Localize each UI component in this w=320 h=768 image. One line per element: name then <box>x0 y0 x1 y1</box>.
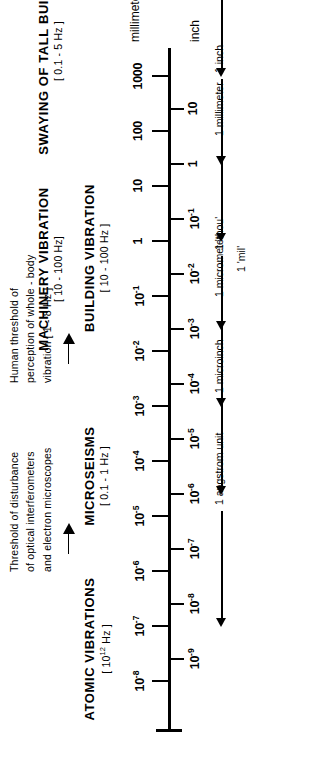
note-optical-disturbance-threshold: Threshold of disturbance of optical inte… <box>6 357 55 572</box>
millimeter-unit-caption: millimeter <box>128 0 142 42</box>
inch-tick <box>169 273 184 275</box>
inch-tick-label: 10-2 <box>186 263 202 284</box>
note-optical-arrow <box>62 524 76 554</box>
inch-tick <box>169 383 184 385</box>
millimeter-tick-label: 10-3 <box>131 396 147 417</box>
millimeter-tick <box>152 625 169 627</box>
inch-tick <box>169 218 184 220</box>
millimeter-tick <box>152 570 169 572</box>
millimeter-tick-label: 10-6 <box>131 561 147 582</box>
reference-marker-label: 1 angstrom unit <box>213 433 225 505</box>
reference-marker-label: 1 millimeter <box>213 82 225 136</box>
millimeter-tick-label: 1000 <box>131 63 145 90</box>
category-atomic-vibrations: ATOMIC VIBRATIONS [ 1012 Hz ] <box>82 564 112 734</box>
millimeter-tick-label: 10-4 <box>131 451 147 472</box>
millimeter-tick <box>152 130 169 132</box>
inch-tick-label: 10-5 <box>186 428 202 449</box>
inch-tick <box>169 438 184 440</box>
inch-tick-label: 10-9 <box>186 648 202 669</box>
vibration-scale-figure: 100010010110-110-210-310-410-510-610-710… <box>0 0 320 768</box>
millimeter-tick-label: 1 <box>131 238 145 245</box>
millimeter-tick <box>152 295 169 297</box>
inch-tick-label: 10-4 <box>186 373 202 394</box>
millimeter-tick-label: 10-2 <box>131 341 147 362</box>
inch-tick-label: 10-7 <box>186 538 202 559</box>
note-human-perception-threshold: Human threshold of perception of whole -… <box>6 168 55 383</box>
arrow-head-icon <box>216 618 226 627</box>
millimeter-tick <box>152 460 169 462</box>
category-frequency: [ 10 - 100 Hz ] <box>98 168 110 348</box>
note-human-arrow <box>62 334 76 364</box>
category-name: BUILDING VIBRATION <box>82 168 97 348</box>
category-frequency: [ 0.1 - 5 Hz ] <box>52 0 64 156</box>
main-axis-line <box>168 48 171 732</box>
arrow-stem <box>221 511 223 619</box>
inch-tick-label: 10-3 <box>186 318 202 339</box>
category-microseisms: MICROSEISMS [ 0.1 - 1 Hz ] <box>82 396 110 556</box>
category-name: SWAYING OF TALL BUILDINGS <box>36 0 51 156</box>
millimeter-tick <box>152 75 169 77</box>
millimeter-tick <box>152 240 169 242</box>
category-name: ATOMIC VIBRATIONS <box>82 564 97 734</box>
millimeter-tick-label: 10-7 <box>131 616 147 637</box>
reference-marker-label: 1 inch <box>213 45 225 73</box>
category-frequency: [ 0.1 - 1 Hz ] <box>98 396 110 556</box>
inch-tick <box>169 658 184 660</box>
reference-marker: 1 'mil' <box>236 215 252 329</box>
millimeter-tick-label: 100 <box>131 121 145 141</box>
millimeter-tick-label: 10-8 <box>131 671 147 692</box>
category-frequency: [ 1012 Hz ] <box>98 564 112 734</box>
reference-marker-label: 1 micrometer <box>213 236 225 297</box>
inch-tick <box>169 603 184 605</box>
reference-marker: 1 angstrom unit <box>214 448 230 626</box>
category-name: MICROSEISMS <box>82 396 97 556</box>
reference-marker-label: 1 microinch <box>213 339 225 393</box>
millimeter-tick <box>152 515 169 517</box>
reference-marker-label: 1 'mil' <box>235 246 247 272</box>
millimeter-tick <box>152 185 169 187</box>
category-building-vibration: BUILDING VIBRATION [ 10 - 100 Hz ] <box>82 168 110 348</box>
millimeter-tick-label: 10 <box>131 179 145 192</box>
inch-tick-label: 10-6 <box>186 483 202 504</box>
inch-tick-label: 10 <box>186 102 200 115</box>
millimeter-tick <box>152 350 169 352</box>
inch-tick <box>169 493 184 495</box>
figure-rotation-wrapper: 100010010110-110-210-310-410-510-610-710… <box>0 0 320 768</box>
inch-tick <box>169 328 184 330</box>
inch-tick-label: 10-1 <box>186 208 202 229</box>
millimeter-tick <box>152 405 169 407</box>
inch-tick <box>169 163 184 165</box>
millimeter-tick-label: 10-5 <box>131 506 147 527</box>
axis-end-cap <box>156 729 182 732</box>
category-swaying-of-tall-buildings: SWAYING OF TALL BUILDINGS [ 0.1 - 5 Hz ] <box>36 0 64 156</box>
inch-tick <box>169 548 184 550</box>
inch-tick-label: 1 <box>186 161 200 168</box>
millimeter-tick <box>152 680 169 682</box>
millimeter-tick-label: 10-1 <box>131 286 147 307</box>
inch-tick <box>169 108 184 110</box>
inch-tick-label: 10-8 <box>186 593 202 614</box>
inch-unit-caption: inch <box>188 20 202 42</box>
